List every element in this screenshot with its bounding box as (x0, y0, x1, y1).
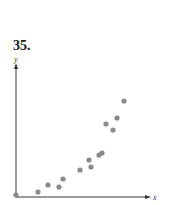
data-point (114, 115, 119, 120)
data-point (86, 157, 91, 162)
x-axis-label: x (152, 193, 157, 202)
data-point (13, 192, 18, 197)
x-axis-arrow-icon (145, 195, 151, 199)
data-points (13, 98, 126, 197)
data-point (88, 164, 93, 169)
data-point (77, 167, 82, 172)
y-axis-label: y (13, 55, 18, 64)
data-point (103, 121, 108, 126)
data-point (56, 184, 61, 189)
data-point (60, 176, 65, 181)
data-point (99, 150, 104, 155)
data-point (45, 182, 50, 187)
data-point (121, 98, 126, 103)
data-point (110, 127, 115, 132)
data-point (35, 189, 40, 194)
scatter-plot: y x (0, 0, 169, 205)
